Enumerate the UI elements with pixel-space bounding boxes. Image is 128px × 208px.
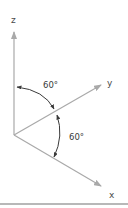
x-axis-label: x (109, 190, 115, 200)
angle-label-zy: 60° (43, 80, 58, 90)
x-axis-line (14, 135, 101, 186)
bottom-divider (0, 203, 128, 205)
z-axis: z (11, 15, 16, 135)
angle-yx: 60° (54, 115, 84, 157)
angle-arc-yx (54, 115, 60, 157)
angle-zy: 60° (17, 80, 58, 109)
angle-label-yx: 60° (69, 132, 84, 142)
y-axis: y (14, 78, 113, 135)
angle-arc-zy (17, 87, 54, 109)
y-axis-label: y (107, 78, 113, 88)
x-axis: x (14, 135, 115, 200)
coordinate-axes-diagram: z y x 60° 60° (0, 0, 128, 208)
z-axis-label: z (11, 15, 16, 25)
y-axis-line (14, 85, 101, 135)
